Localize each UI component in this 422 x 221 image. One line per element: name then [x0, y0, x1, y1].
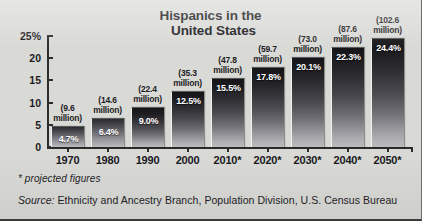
bar-value-label-2030: 20.1% — [292, 62, 325, 72]
source-text: Ethnicity and Ancestry Branch, Populatio… — [55, 194, 398, 206]
bar-value-label-1970: 4.7% — [52, 134, 85, 144]
bar-2040: 22.3% — [331, 47, 364, 147]
bar-2030: 20.1% — [291, 57, 324, 147]
x-tick-end — [411, 147, 413, 152]
y-axis-label-5: 5 — [35, 120, 41, 131]
bar-1980: 6.4% — [91, 118, 124, 147]
x-tick-2020 — [267, 147, 269, 152]
x-tick-2050 — [387, 147, 389, 152]
y-axis-label-25: 25% — [20, 31, 41, 42]
x-axis-label-2000: 2000 — [165, 154, 210, 166]
bar-population-label-2030: (73.0 million) — [285, 35, 330, 54]
source-lead: Source: — [18, 194, 55, 206]
x-axis-line — [47, 147, 413, 149]
x-axis-label-2020: 2020* — [245, 154, 290, 166]
bar-2000: 12.5% — [171, 91, 204, 147]
y-tick-15 — [47, 79, 53, 81]
x-axis-label-2040: 2040* — [325, 154, 370, 166]
bar-1990: 9.0% — [131, 107, 164, 147]
bar-value-label-2040: 22.3% — [332, 52, 365, 62]
bar-population-label-2050: (102.6 million) — [365, 16, 410, 35]
bar-value-label-2020: 17.8% — [252, 72, 285, 82]
bar-value-label-2010: 15.5% — [212, 83, 245, 93]
bar-2050: 24.4% — [371, 38, 404, 147]
chart-figure: Hispanics in the United States 25% 20 15… — [0, 0, 422, 221]
bar-population-label-1990: (22.4 million) — [125, 85, 170, 104]
x-tick-2010 — [227, 147, 229, 152]
x-axis-label-2050: 2050* — [365, 154, 410, 166]
bar-value-label-2000: 12.5% — [172, 96, 205, 106]
x-axis-label-1970: 1970 — [45, 154, 90, 166]
bar-2010: 15.5% — [211, 78, 244, 147]
bar-population-label-2010: (47.8 million) — [205, 56, 250, 75]
bar-population-label-1980: (14.6 million) — [85, 96, 130, 115]
x-tick-2030 — [307, 147, 309, 152]
bar-value-label-2050: 24.4% — [372, 43, 405, 53]
x-tick-1970 — [67, 147, 69, 152]
x-tick-2040 — [347, 147, 349, 152]
y-tick-25 — [47, 35, 53, 37]
bar-population-label-2020: (59.7 million) — [245, 45, 290, 64]
y-tick-20 — [47, 57, 53, 59]
bar-population-label-2040: (87.6 million) — [325, 25, 370, 44]
x-axis-label-1980: 1980 — [85, 154, 130, 166]
bar-2020: 17.8% — [251, 67, 284, 147]
x-tick-1990 — [147, 147, 149, 152]
bar-population-label-1970: (9.6 million) — [45, 104, 90, 123]
x-axis-label-1990: 1990 — [125, 154, 170, 166]
y-axis-line — [47, 35, 49, 147]
footnote-projected: * projected figures — [18, 173, 101, 184]
x-tick-2000 — [187, 147, 189, 152]
y-axis-label-20: 20 — [29, 53, 41, 64]
bar-1970: 4.7% — [51, 126, 84, 147]
x-axis-label-2030: 2030* — [285, 154, 330, 166]
bar-value-label-1980: 6.4% — [92, 127, 125, 137]
y-axis-label-15: 15 — [29, 75, 41, 86]
plot-area: 25% 20 15 10 5 0 (9.6 million) 4.7% 1970… — [47, 35, 413, 147]
y-axis-label-0: 0 — [35, 142, 41, 153]
chart-title-line-1: Hispanics in the — [0, 9, 421, 24]
x-tick-1980 — [107, 147, 109, 152]
source-line: Source: Ethnicity and Ancestry Branch, P… — [18, 194, 397, 206]
y-axis-label-10: 10 — [29, 98, 41, 109]
bar-value-label-1990: 9.0% — [132, 116, 165, 126]
x-axis-label-2010: 2010* — [205, 154, 250, 166]
bar-population-label-2000: (35.3 million) — [165, 69, 210, 88]
